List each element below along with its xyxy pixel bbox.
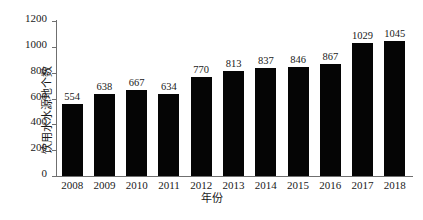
bar-rect [191, 77, 212, 176]
bar-rect [158, 94, 179, 176]
bar-item: 867 [320, 21, 341, 176]
bar-item: 667 [126, 21, 147, 176]
y-axis-tick-label: 600 [31, 91, 48, 102]
y-axis-tick-label: 0 [42, 168, 48, 179]
y-axis-tick-label: 1200 [25, 13, 47, 24]
bar-rect [288, 67, 309, 176]
bar-rect [384, 41, 405, 176]
bar-value-label: 1045 [384, 28, 405, 39]
x-axis-tick-label: 2009 [93, 179, 115, 191]
bar-value-label: 1029 [352, 30, 373, 41]
bar-item: 554 [62, 21, 83, 176]
y-axis-tick-mark [52, 176, 56, 177]
x-axis-tick-label: 2013 [223, 179, 245, 191]
y-axis-tick-label: 1000 [25, 39, 47, 50]
x-axis-tick-label: 2015 [287, 179, 309, 191]
bar-value-label: 813 [226, 58, 242, 69]
y-axis-tick-label: 200 [31, 142, 48, 153]
bar-item: 837 [255, 21, 276, 176]
bar-item: 638 [94, 21, 115, 176]
bar-rect [352, 43, 373, 176]
bar-value-label: 846 [290, 54, 306, 65]
x-axis-tick-label: 2012 [190, 179, 212, 191]
bar-item: 813 [223, 21, 244, 176]
bar-item: 1045 [384, 21, 405, 176]
bar-value-label: 837 [258, 55, 274, 66]
bar-item: 634 [158, 21, 179, 176]
bar-rect [62, 104, 83, 176]
bar-item: 1029 [352, 21, 373, 176]
bar-value-label: 634 [161, 81, 177, 92]
x-axis-tick-label: 2017 [352, 179, 374, 191]
bar-series: 55463866763477081383784686710291045 [56, 21, 411, 176]
bar-rect [94, 94, 115, 176]
x-axis-title: 年份 [0, 193, 423, 205]
y-axis-tick-label: 400 [31, 116, 48, 127]
x-axis-tick-label: 2008 [61, 179, 83, 191]
bar-chart: 饮用水水源地个数 020040060080010001200 554638667… [0, 0, 423, 220]
bar-value-label: 638 [97, 81, 113, 92]
x-axis-tick-label: 2018 [384, 179, 406, 191]
x-axis-tick-label: 2010 [126, 179, 148, 191]
bar-rect [223, 71, 244, 176]
plot-area: 020040060080010001200 554638667634770813… [56, 21, 411, 176]
bar-rect [255, 68, 276, 176]
bar-value-label: 867 [322, 51, 338, 62]
bar-value-label: 554 [64, 91, 80, 102]
y-axis-tick-label: 800 [31, 65, 48, 76]
x-axis-tick-label: 2016 [319, 179, 341, 191]
bar-rect [126, 90, 147, 176]
bar-value-label: 667 [129, 77, 145, 88]
x-axis-tick-label: 2011 [158, 179, 180, 191]
bar-item: 770 [191, 21, 212, 176]
x-axis-line [56, 176, 413, 177]
bar-item: 846 [288, 21, 309, 176]
x-axis-tick-label: 2014 [255, 179, 277, 191]
bar-rect [320, 64, 341, 176]
bar-value-label: 770 [193, 64, 209, 75]
